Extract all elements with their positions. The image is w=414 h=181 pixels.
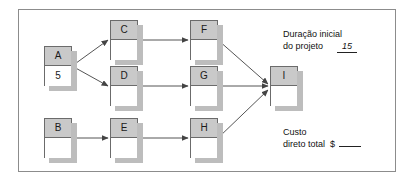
cost-line2: direto total — [283, 139, 325, 151]
node-i-label: I — [271, 67, 297, 86]
cost-line1: Custo — [283, 127, 361, 139]
duration-line2-row: do projeto 15 — [283, 41, 357, 54]
node-f-label: F — [191, 21, 217, 40]
duration-annotation: Duração inicial do projeto 15 — [283, 29, 357, 53]
node-b-label: B — [45, 119, 71, 138]
node-c-value — [111, 40, 137, 60]
duration-value-field[interactable]: 15 — [337, 41, 357, 54]
duration-line1: Duração inicial — [283, 29, 357, 41]
cost-value-field[interactable] — [339, 146, 361, 147]
node-g-value — [191, 86, 217, 106]
node-e[interactable]: E — [110, 118, 138, 158]
node-a-value: 5 — [45, 66, 71, 86]
node-i-value — [271, 86, 297, 106]
node-g[interactable]: G — [190, 66, 218, 106]
node-a-label: A — [45, 47, 71, 66]
node-b-value — [45, 138, 71, 158]
currency-symbol: $ — [330, 139, 335, 151]
node-f-value — [191, 40, 217, 60]
node-e-value — [111, 138, 137, 158]
node-g-label: G — [191, 67, 217, 86]
cost-line2-row: direto total $ — [283, 139, 361, 151]
duration-line2: do projeto — [283, 41, 323, 53]
node-c[interactable]: C — [110, 20, 138, 60]
node-f[interactable]: F — [190, 20, 218, 60]
node-h[interactable]: H — [190, 118, 218, 158]
node-d[interactable]: D — [110, 66, 138, 106]
node-c-label: C — [111, 21, 137, 40]
node-d-value — [111, 86, 137, 106]
node-a[interactable]: A 5 — [44, 46, 72, 86]
node-e-label: E — [111, 119, 137, 138]
node-b[interactable]: B — [44, 118, 72, 158]
node-h-label: H — [191, 119, 217, 138]
cost-annotation: Custo direto total $ — [283, 127, 361, 150]
node-h-value — [191, 138, 217, 158]
node-d-label: D — [111, 67, 137, 86]
node-i[interactable]: I — [270, 66, 298, 106]
diagram-screenshot: A 5 B C D E F G H I Duração in — [0, 0, 414, 181]
